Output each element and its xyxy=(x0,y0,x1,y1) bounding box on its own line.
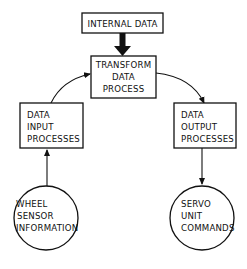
servo-label-line3: COMMANDS xyxy=(181,223,235,233)
transform-label-line3: PROCESS xyxy=(103,84,145,94)
node-wheel-sensor-information: WHEEL SENSOR INFORMATION xyxy=(14,186,78,250)
transform-label-line1: TRANSFORM xyxy=(95,60,152,70)
node-transform-data-process: TRANSFORM DATA PROCESS xyxy=(91,56,156,98)
data-flow-diagram: INTERNAL DATA TRANSFORM DATA PROCESS DAT… xyxy=(0,0,247,269)
input-label-line1: DATA xyxy=(27,110,50,120)
input-label-line2: INPUT xyxy=(27,122,54,132)
node-internal-data: INTERNAL DATA xyxy=(82,13,163,33)
output-label-line2: OUTPUT xyxy=(181,122,218,132)
node-data-output-processes: DATA OUTPUT PROCESSES xyxy=(174,103,236,148)
transform-label-line2: DATA xyxy=(112,72,135,82)
edge-internal-to-transform xyxy=(114,33,131,56)
node-servo-unit-commands: SERVO UNIT COMMANDS xyxy=(170,186,235,250)
wheel-label-line2: SENSOR xyxy=(17,211,54,221)
node-data-input-processes: DATA INPUT PROCESSES xyxy=(20,103,83,148)
output-label-line1: DATA xyxy=(181,110,204,120)
servo-label-line2: UNIT xyxy=(181,211,203,221)
servo-label-line1: SERVO xyxy=(181,199,211,209)
input-label-line3: PROCESSES xyxy=(27,134,80,144)
output-label-line3: PROCESSES xyxy=(181,134,234,144)
edge-transform-to-output xyxy=(156,73,204,103)
internal-data-label: INTERNAL DATA xyxy=(87,19,157,29)
wheel-label-line1: WHEEL xyxy=(16,199,48,209)
edge-input-to-transform xyxy=(51,74,90,103)
wheel-label-line3: INFORMATION xyxy=(16,223,78,233)
